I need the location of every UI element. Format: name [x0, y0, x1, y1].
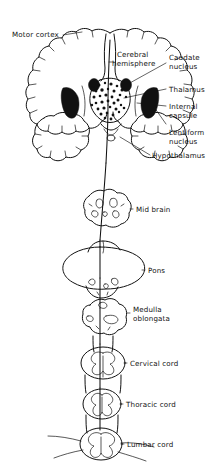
label-cerebral-hemisphere-line1: Cerebral: [117, 50, 148, 59]
label-internal-capsule-line1: Internal: [169, 102, 198, 111]
mid-brain-internal: [89, 198, 124, 218]
label-lumbar-cord: Lumbar cord: [127, 440, 173, 449]
label-medulla-oblongata-line1: Medulla: [133, 305, 162, 314]
cortical-gyri-left: [28, 31, 93, 132]
label-thalamus: Thalamus: [168, 85, 205, 94]
internal-capsule-left: [82, 86, 85, 116]
lentiform-nucleus-left: [61, 87, 79, 118]
motor-pathway-diagram: Motor cortex Cerebral hemisphere Caudate…: [0, 0, 222, 474]
label-cerebral-hemisphere-line2: hemisphere: [112, 59, 155, 68]
label-caudate-nucleus-line1: Caudate: [169, 53, 200, 62]
mid-brain: [84, 189, 132, 227]
label-internal-capsule-line2: capsule: [169, 111, 197, 120]
label-cervical-cord: Cervical cord: [130, 359, 178, 368]
diagram-labels: Motor cortex Cerebral hemisphere Caudate…: [12, 30, 205, 449]
label-pons: Pons: [148, 266, 165, 275]
thoracic-cord: [83, 389, 121, 433]
label-lentiform-nucleus-line2: nucleus: [169, 137, 198, 146]
label-lentiform-nucleus-line1: Lentiform: [169, 128, 204, 137]
corticospinal-tract: [100, 40, 110, 430]
cervical-cord: [81, 347, 125, 393]
temporal-lobe-left-folds: [35, 134, 88, 157]
label-caudate-nucleus-line2: nucleus: [169, 62, 198, 71]
pons: [63, 241, 145, 298]
internal-capsule-right: [135, 86, 138, 116]
lumbar-nerve-root-left-2: [54, 450, 83, 458]
label-hypothalamus: Hypothalamus: [152, 151, 205, 160]
label-motor-cortex: Motor cortex: [12, 30, 59, 39]
lumbar-nerve-root-left: [48, 436, 81, 441]
leader-hypothalamus: [120, 137, 150, 155]
label-thoracic-cord: Thoracic cord: [125, 400, 176, 409]
lumbar-nerve-root-right-2: [118, 452, 146, 461]
leader-lentiform-nucleus: [154, 107, 166, 124]
lentiform-nucleus-right: [141, 87, 159, 118]
label-medulla-oblongata-line2: oblongata: [133, 314, 170, 323]
label-mid-brain: Mid brain: [136, 205, 170, 214]
pons-internal: [89, 278, 119, 295]
medulla-oblongata: [82, 299, 126, 352]
medulla-internal: [86, 302, 118, 330]
